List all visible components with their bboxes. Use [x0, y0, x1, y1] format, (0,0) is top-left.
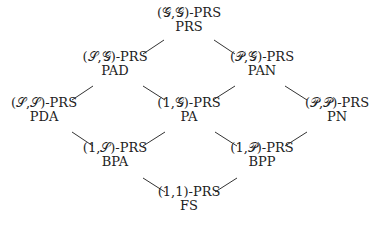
- node-pad: (𝒮,𝒢)-PRSPAD: [82, 50, 147, 78]
- node-abbrev-label: PDA: [11, 110, 77, 124]
- node-abbrev-label: PN: [305, 110, 369, 124]
- node-abbrev-label: FS: [158, 199, 221, 213]
- node-pan: (𝒫,𝒢)-PRSPAN: [230, 50, 294, 78]
- node-class-label: (𝒮,𝒮)-PRS: [11, 96, 77, 110]
- node-prs: (𝒢,𝒢)-PRSPRS: [157, 6, 221, 34]
- node-class-label: (𝒫,𝒢)-PRS: [230, 50, 294, 64]
- node-pn: (𝒫,𝒫)-PRSPN: [305, 96, 369, 124]
- lattice-diagram: (𝒢,𝒢)-PRSPRS(𝒮,𝒢)-PRSPAD(𝒫,𝒢)-PRSPAN(𝒮,𝒮…: [0, 0, 382, 241]
- node-abbrev-label: PRS: [157, 20, 221, 34]
- node-fs: (1,1)-PRSFS: [158, 185, 221, 213]
- edge-pan-pn: [285, 86, 307, 100]
- node-bpa: (1,𝒮)-PRSBPA: [83, 141, 147, 169]
- node-abbrev-label: PA: [157, 110, 220, 124]
- node-bpp: (1,𝒫)-PRSBPP: [230, 141, 293, 169]
- node-abbrev-label: BPA: [83, 155, 147, 169]
- node-class-label: (𝒢,𝒢)-PRS: [157, 6, 221, 20]
- node-class-label: (1,𝒫)-PRS: [230, 141, 293, 155]
- node-class-label: (1,𝒮)-PRS: [83, 141, 147, 155]
- node-class-label: (𝒫,𝒫)-PRS: [305, 96, 369, 110]
- node-class-label: (𝒮,𝒢)-PRS: [82, 50, 147, 64]
- node-pa: (1,𝒢)-PRSPA: [157, 96, 220, 124]
- node-class-label: (1,1)-PRS: [158, 185, 221, 199]
- node-class-label: (1,𝒢)-PRS: [157, 96, 220, 110]
- node-abbrev-label: PAN: [230, 64, 294, 78]
- node-abbrev-label: BPP: [230, 155, 293, 169]
- node-pda: (𝒮,𝒮)-PRSPDA: [11, 96, 77, 124]
- node-abbrev-label: PAD: [82, 64, 147, 78]
